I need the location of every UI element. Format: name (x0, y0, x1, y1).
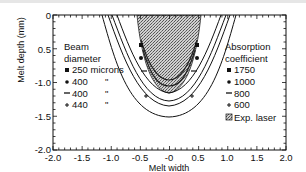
melt-pool-chart: -2.0 -1.5 -1.0 -0.5 -0 0.5 1.0 1.5 2.0 0… (0, 0, 306, 172)
svg-text:0.5: 0.5 (38, 44, 51, 55)
svg-text:": " (105, 76, 108, 87)
svg-text:250 microns: 250 microns (72, 64, 124, 75)
svg-text:-1.5: -1.5 (74, 152, 90, 163)
x-tick-labels: -2.0 -1.5 -1.0 -0.5 -0 0.5 1.0 1.5 2.0 (45, 152, 293, 163)
svg-text:-1.0: -1.0 (103, 152, 119, 163)
svg-text:diameter: diameter (64, 53, 101, 64)
svg-text:-0: -0 (165, 152, 173, 163)
circle-marker-icon (227, 80, 231, 84)
square-marker-icon (227, 68, 231, 72)
svg-text:coefficient: coefficient (225, 53, 268, 64)
svg-text:-2.0: -2.0 (35, 144, 51, 155)
y-axis-title: Melt depth (mm) (16, 17, 26, 83)
svg-text:Beam: Beam (64, 41, 89, 52)
svg-text:400: 400 (72, 76, 88, 87)
svg-text:600: 600 (234, 99, 250, 110)
svg-text:0: 0 (46, 10, 51, 21)
x-axis-title: Melt width (149, 163, 190, 172)
plus-marker-icon (65, 103, 69, 107)
legend-absorption-coefficient: Absorption coefficient 1750 1000 800 600… (225, 41, 276, 123)
y-tick-labels: 0 0.5 -1.0 -1.5 -2.0 (35, 10, 51, 155)
hatched-box-icon (226, 114, 232, 120)
svg-text:-1.5: -1.5 (35, 111, 51, 122)
svg-text:0.5: 0.5 (191, 152, 204, 163)
svg-text:440: 440 (72, 99, 88, 110)
svg-text:1.0: 1.0 (220, 152, 233, 163)
svg-text:800: 800 (234, 88, 250, 99)
svg-text:-1.0: -1.0 (35, 77, 51, 88)
svg-text:Exp. laser: Exp. laser (234, 112, 276, 123)
svg-text:400: 400 (72, 88, 88, 99)
svg-text:-0.5: -0.5 (132, 152, 148, 163)
svg-text:1000: 1000 (234, 76, 255, 87)
svg-text:": " (105, 99, 108, 110)
exp-laser-region (137, 15, 201, 93)
svg-text:": " (105, 88, 108, 99)
legend-beam-diameter: Beam diameter 250 microns 400 " 400 " 44… (64, 41, 124, 110)
square-marker-icon (65, 68, 69, 72)
svg-text:2.0: 2.0 (279, 152, 292, 163)
svg-text:1.5: 1.5 (250, 152, 263, 163)
svg-text:Absorption: Absorption (225, 41, 270, 52)
plus-marker-icon (227, 103, 231, 107)
svg-text:1750: 1750 (234, 64, 255, 75)
circle-marker-icon (65, 80, 69, 84)
